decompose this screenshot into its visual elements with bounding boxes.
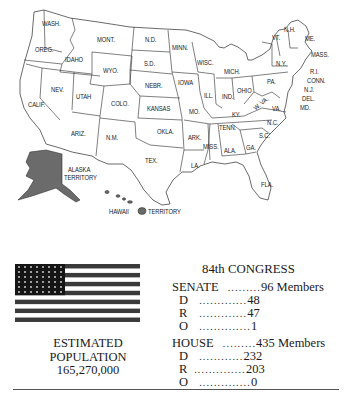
flag-canton [15, 264, 65, 295]
state-label-ohio: OHIO [237, 87, 252, 94]
us-map: WASH. OREG. IDAHO MONT. N.D. MINN. WYO. … [0, 0, 352, 250]
senate-r-dots: ............. [199, 308, 247, 319]
state-label-nc: N.C. [267, 119, 278, 126]
state-label-mont: MONT. [97, 36, 115, 43]
state-label-pa: PA. [267, 78, 276, 85]
territory-label-alaska: ALASKA [68, 166, 90, 173]
senate-r-value: 47 [247, 306, 260, 320]
state-label-va: VA. [272, 105, 281, 112]
house-o-party: O [179, 376, 196, 389]
state-label-md: MD. [300, 104, 310, 111]
state-label-nh: N.H. [284, 26, 295, 33]
state-label-wash: WASH. [42, 20, 61, 27]
house-o-row: O ..............0 [179, 376, 257, 389]
senate-d-value: 48 [247, 293, 260, 307]
state-label-ill: ILL. [204, 92, 213, 99]
congress-title: 84th CONGRESS [202, 262, 295, 277]
senate-o-party: O [179, 320, 196, 333]
state-label-ga: GA. [246, 144, 256, 151]
house-o-value: 0 [251, 375, 257, 389]
state-label-ri: R.I. [310, 68, 319, 75]
state-label-calif: CALIF. [28, 101, 45, 108]
senate-r-row: R .............47 [179, 307, 260, 320]
state-label-colo: COLO. [111, 100, 129, 107]
state-label-fla: FLA. [261, 181, 273, 188]
state-label-miss: MISS. [203, 143, 218, 150]
house-r-dots: .............. [194, 364, 246, 375]
state-label-mich: MICH. [224, 68, 240, 75]
state-label-wisc: WISC. [197, 59, 213, 66]
state-label-ariz: ARIZ. [71, 130, 86, 137]
senate-o-value: 1 [251, 319, 257, 333]
state-label-tenn: TENN. [219, 124, 236, 131]
state-label-sd: S.D. [144, 60, 155, 67]
state-label-nd: N.D. [145, 36, 156, 43]
house-d-value: 232 [244, 349, 263, 363]
state-label-sc: S.C. [259, 132, 270, 139]
state-label-conn: CONN. [307, 77, 325, 84]
state-label-ind: IND. [222, 93, 233, 100]
senate-o-dots: .............. [199, 321, 251, 332]
population-line1: ESTIMATED [38, 337, 138, 351]
state-label-nm: N.M. [106, 134, 118, 141]
state-label-ark: ARK. [188, 134, 201, 141]
senate-total: 96 Members [261, 280, 324, 294]
bottom-divider [13, 389, 339, 390]
senate-o-row: O ..............1 [179, 320, 257, 333]
senate-dots: ......... [228, 282, 261, 293]
territory-label-hawaii: HAWAII [109, 208, 129, 215]
house-total: 435 Members [256, 336, 325, 350]
state-label-mass: MASS. [311, 51, 329, 58]
state-label-ny: N.Y. [276, 60, 286, 67]
state-label-vt: VT. [272, 34, 280, 41]
state-label-okla: OKLA. [157, 128, 174, 135]
state-label-nev: NEV. [51, 86, 64, 93]
population-block: ESTIMATED POPULATION 165,270,000 [38, 337, 138, 378]
state-label-ala: ALA. [224, 147, 236, 154]
state-label-del: DEL. [302, 95, 315, 102]
state-label-wyo: WYO. [103, 67, 118, 74]
state-label-tex: TEX. [145, 157, 158, 164]
house-o-dots: .............. [199, 377, 251, 388]
state-label-kansas: KANSAS [147, 105, 170, 112]
state-label-oreg: OREG. [35, 46, 53, 53]
state-label-minn: MINN. [172, 44, 188, 51]
house-r-value: 203 [246, 362, 265, 376]
population-value: 165,270,000 [38, 364, 138, 378]
territory-sublabel-alaska: TERRITORY [64, 174, 97, 181]
state-label-iowa: IOWA [178, 79, 193, 86]
state-label-mo: MO. [189, 108, 200, 115]
state-label-nebr: NEBR. [145, 82, 162, 89]
state-label-me: ME. [305, 35, 315, 42]
territory-sublabel-hawaii: TERRITORY [148, 208, 181, 215]
house-d-dots: ............ [199, 351, 243, 362]
house-dots: ......... [223, 338, 256, 349]
population-line2: POPULATION [38, 351, 138, 365]
state-label-la: LA. [191, 162, 200, 169]
state-label-idaho: IDAHO [65, 56, 83, 63]
state-label-nj: N.J. [304, 86, 314, 93]
state-label-utah: UTAH [76, 93, 91, 100]
state-label-ky: KY. [232, 111, 240, 118]
us-flag-48-stars [15, 264, 140, 322]
senate-d-dots: ............. [199, 295, 247, 306]
